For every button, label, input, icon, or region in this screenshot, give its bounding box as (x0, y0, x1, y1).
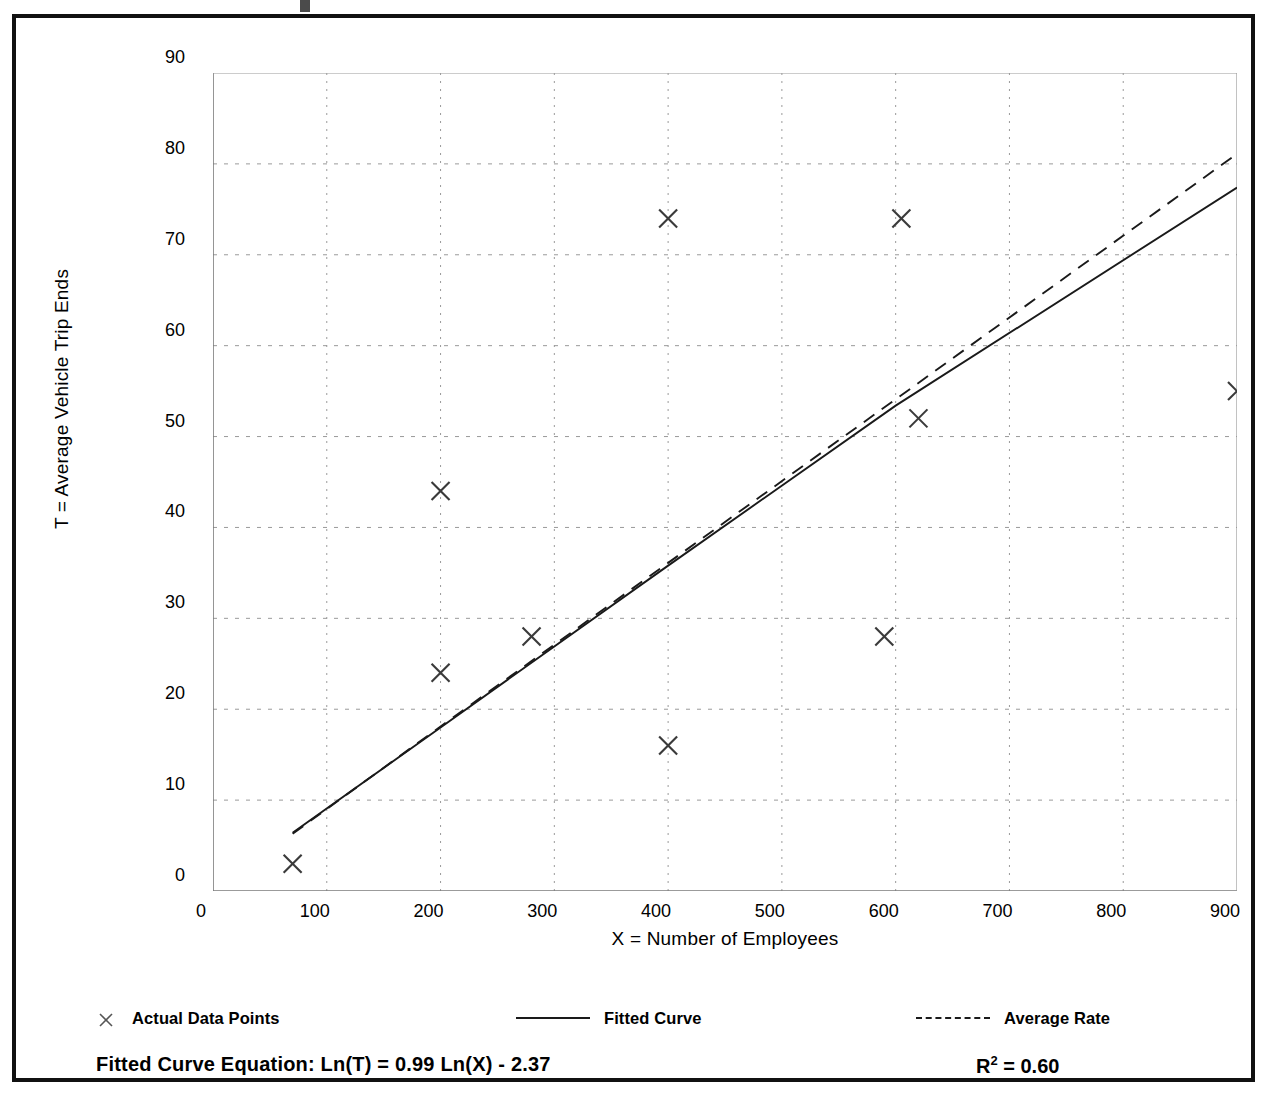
axis-lines-group (213, 73, 1237, 891)
y-tick-label: 50 (139, 411, 185, 432)
legend-label-actual-data-points: Actual Data Points (132, 1009, 280, 1028)
x-tick-label: 400 (626, 901, 686, 922)
x-axis-title: X = Number of Employees (213, 928, 1237, 950)
chart-frame-border: T = Average Vehicle Trip Ends X = Number… (12, 14, 1255, 1082)
x-tick-label: 200 (399, 901, 459, 922)
data-point-marker (659, 209, 677, 227)
legend-label-fitted-curve: Fitted Curve (604, 1009, 701, 1028)
fitted-curve-equation: Fitted Curve Equation: Ln(T) = 0.99 Ln(X… (96, 1053, 551, 1076)
y-tick-label: 20 (139, 683, 185, 704)
x-tick-label: 800 (1081, 901, 1141, 922)
y-tick-label: 70 (139, 229, 185, 250)
r-squared-symbol: R (976, 1055, 990, 1077)
x-tick-label: 600 (854, 901, 914, 922)
legend-label-average-rate: Average Rate (1004, 1009, 1110, 1028)
r-squared-exponent: 2 (990, 1053, 997, 1068)
scan-artifact (300, 0, 310, 12)
data-point-marker (523, 628, 541, 646)
legend-item-average-rate: Average Rate (916, 1003, 1110, 1033)
y-tick-label: 80 (139, 138, 185, 159)
chart-footer: Fitted Curve Equation: Ln(T) = 0.99 Ln(X… (96, 1053, 1236, 1093)
gridlines-group (213, 73, 1237, 891)
fitted-curve-line (293, 188, 1237, 833)
y-tick-label: 0 (139, 865, 185, 886)
data-series-group (284, 154, 1237, 873)
data-point-marker (909, 409, 927, 427)
x-tick-label: 100 (285, 901, 345, 922)
plot-area (213, 73, 1237, 891)
x-marker-icon (96, 1010, 118, 1026)
chart-legend: Actual Data Points Fitted Curve Average … (96, 1003, 1236, 1035)
axis-ticks-group (213, 73, 1237, 891)
y-axis-title: T = Average Vehicle Trip Ends (51, 234, 73, 564)
r-squared-number: = 0.60 (998, 1055, 1060, 1077)
x-tick-label: 900 (1195, 901, 1255, 922)
x-tick-label: 300 (512, 901, 572, 922)
y-tick-label: 30 (139, 592, 185, 613)
r-squared-value: R2 = 0.60 (976, 1053, 1059, 1078)
solid-line-icon (516, 1010, 590, 1026)
chart-plot-svg (213, 73, 1237, 891)
chart-page: T = Average Vehicle Trip Ends X = Number… (0, 0, 1271, 1098)
y-tick-label: 60 (139, 320, 185, 341)
data-point-marker (284, 855, 302, 873)
y-tick-label: 40 (139, 501, 185, 522)
data-point-marker (1228, 382, 1237, 400)
x-tick-label: 0 (171, 901, 231, 922)
legend-item-fitted-curve: Fitted Curve (516, 1003, 701, 1033)
data-point-marker (659, 737, 677, 755)
y-tick-label: 10 (139, 774, 185, 795)
data-point-marker (892, 209, 910, 227)
dashed-line-icon (916, 1010, 990, 1026)
y-tick-label: 90 (139, 47, 185, 68)
legend-item-actual-data-points: Actual Data Points (96, 1003, 280, 1033)
data-point-marker (875, 628, 893, 646)
x-tick-label: 500 (740, 901, 800, 922)
x-tick-label: 700 (967, 901, 1027, 922)
